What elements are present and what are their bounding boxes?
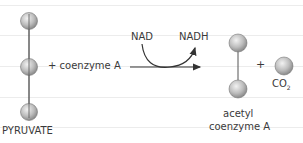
co2-text: CO xyxy=(272,78,287,89)
acetyl-coa-molecule xyxy=(229,34,247,98)
pyruvate-molecule xyxy=(21,13,38,121)
nad-label: NAD xyxy=(131,31,153,42)
co2-molecule xyxy=(275,57,293,75)
reaction-arrow xyxy=(130,44,200,67)
nadh-label: NADH xyxy=(179,31,209,42)
acetyl-label: acetyl xyxy=(223,108,253,119)
co2-subscript: 2 xyxy=(287,84,291,91)
coenzyme-a-product-label: coenzyme A xyxy=(209,121,270,132)
pyruvate-label: PYRUVATE xyxy=(2,125,53,136)
coenzyme-a-label: + coenzyme A xyxy=(48,60,121,71)
plus-sign: + xyxy=(256,58,265,71)
co2-label: CO2 xyxy=(272,78,291,91)
